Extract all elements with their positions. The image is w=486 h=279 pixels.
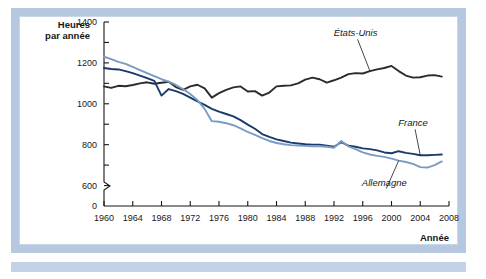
- y-tick-label-1200: 1200: [77, 58, 97, 68]
- x-tick-label-1964: 1964: [123, 213, 143, 223]
- x-tick-label-1976: 1976: [209, 213, 229, 223]
- x-tick-label-1972: 1972: [180, 213, 200, 223]
- y-tick-label-600: 600: [82, 181, 97, 191]
- x-tick-label-1996: 1996: [353, 213, 373, 223]
- line-chart-svg: 6008001000120014000196019641968197219761…: [11, 8, 466, 253]
- annotation-leader-tats-unis: [358, 39, 370, 71]
- x-tick-label-2000: 2000: [381, 213, 401, 223]
- x-tick-label-2004: 2004: [410, 213, 430, 223]
- x-tick-label-1988: 1988: [295, 213, 315, 223]
- bottom-accent-strip: [11, 262, 466, 272]
- x-tick-label-1984: 1984: [266, 213, 286, 223]
- annotation-label-tats-unis: États-Unis: [334, 27, 378, 38]
- y-tick-label-zero: 0: [92, 201, 97, 211]
- x-tick-label-1992: 1992: [324, 213, 344, 223]
- x-tick-label-1960: 1960: [94, 213, 114, 223]
- y-tick-label-1000: 1000: [77, 99, 97, 109]
- annotation-label-allemagne: Allemagne: [361, 177, 407, 188]
- x-axis-title: Année: [420, 232, 449, 243]
- series-line-allemagne: [104, 57, 442, 168]
- x-tick-label-2008: 2008: [439, 213, 459, 223]
- x-tick-label-1968: 1968: [151, 213, 171, 223]
- annotation-leader-france: [415, 129, 420, 155]
- annotation-label-france: France: [398, 117, 428, 128]
- chart-plot-area: 6008001000120014000196019641968197219761…: [11, 8, 466, 253]
- y-axis-title: Heurespar année: [45, 19, 90, 41]
- y-tick-label-800: 800: [82, 140, 97, 150]
- chart-figure: 6008001000120014000196019641968197219761…: [0, 0, 486, 279]
- x-tick-label-1980: 1980: [238, 213, 258, 223]
